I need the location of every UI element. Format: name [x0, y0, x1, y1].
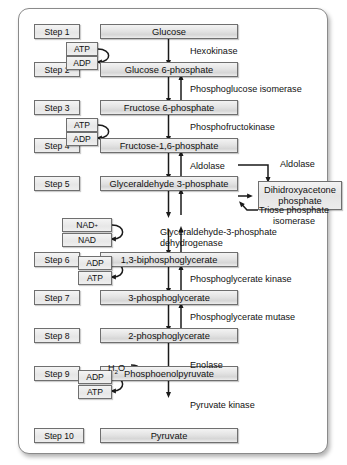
step-label-10: Step 10	[34, 428, 84, 443]
glycolysis-diagram: Step 1 Step 2 Step 3 Step 4 Step 5 Step …	[0, 0, 347, 465]
metabolite-1-3-biphosphoglycerate: 1,3-biphosphoglycerate	[100, 252, 238, 267]
step-label-7: Step 7	[34, 290, 80, 305]
enzyme-triose-phosphate-isomerase: Triose phosphate isomerase	[244, 205, 344, 226]
enzyme-phosphofructokinase: Phosphofructokinase	[190, 122, 275, 133]
nad-plus-text: NAD	[76, 220, 94, 230]
step-label-3: Step 3	[34, 100, 80, 115]
metabolite-fructose-6-phosphate: Fructose 6-phosphate	[100, 100, 238, 115]
cofactor-adp-step1: ADP	[66, 56, 98, 70]
water-o: O	[118, 363, 125, 373]
enzyme-gapdh-line-2: dehydrogenase	[160, 238, 223, 249]
cofactor-nadh-step5: NAD	[62, 233, 112, 247]
enzyme-gapdh-line-1: Glyceraldehyde-3-phosphate	[160, 227, 277, 238]
metabolite-glucose-6-phosphate: Glucose 6-phosphate	[100, 62, 238, 77]
enzyme-phosphoglycerate-kinase: Phosphoglycerate kinase	[190, 274, 292, 285]
metabolite-glucose: Glucose	[100, 24, 238, 39]
step-label-5: Step 5	[34, 176, 80, 191]
small-molecule-water: H2O	[108, 363, 125, 375]
step-label-8: Step 8	[34, 328, 80, 343]
dhap-line-1: Dihidroxyacetone	[264, 185, 336, 195]
metabolite-glyceraldehyde-3-phosphate: Glyceraldehyde 3-phosphate	[100, 176, 238, 191]
step-label-1: Step 1	[34, 24, 80, 39]
enzyme-phosphoglycerate-mutase: Phosphoglycerate mutase	[190, 312, 295, 323]
metabolite-2-phosphoglycerate: 2-phosphoglycerate	[100, 328, 238, 343]
cofactor-adp-step6: ADP	[78, 256, 112, 270]
water-h: H	[108, 363, 115, 373]
cofactor-adp-step9: ADP	[78, 370, 112, 384]
step-label-9: Step 9	[34, 366, 80, 381]
enzyme-phosphoglucose-isomerase: Phosphoglucose isomerase	[190, 84, 302, 95]
metabolite-pyruvate: Pyruvate	[100, 428, 238, 443]
step-label-6: Step 6	[34, 252, 80, 267]
metabolite-fructose-1-6-phosphate: Fructose-1,6-phosphate	[100, 138, 238, 153]
enzyme-aldolase-branch: Aldolase	[280, 159, 315, 170]
nad-plus-superscript: +	[94, 222, 97, 228]
metabolite-3-phosphoglycerate: 3-phosphoglycerate	[100, 290, 238, 305]
cofactor-atp-step6: ATP	[78, 271, 112, 285]
dhap-line-2: phosphate	[278, 196, 321, 206]
cofactor-adp-step3: ADP	[66, 132, 98, 146]
enzyme-aldolase: Aldolase	[190, 161, 225, 172]
enzyme-pyruvate-kinase: Pyruvate kinase	[190, 400, 255, 411]
enzyme-hexokinase: Hexokinase	[190, 46, 238, 57]
cofactor-atp-step1: ATP	[66, 42, 98, 56]
enzyme-enolase: Enolase	[190, 360, 223, 371]
cofactor-nad-plus-step5: NAD+	[62, 218, 112, 232]
cofactor-atp-step3: ATP	[66, 118, 98, 132]
cofactor-atp-step9: ATP	[78, 385, 112, 399]
